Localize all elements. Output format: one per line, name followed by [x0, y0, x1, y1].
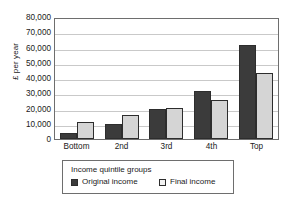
y-axis-tick-label: 30,000: [6, 90, 51, 98]
bar-original-income: [194, 91, 211, 139]
plot-area: [54, 18, 279, 140]
bar-chart: £ per year 80,00070,00060,00050,00040,00…: [0, 0, 297, 203]
x-axis-tick-labels: Bottom2nd3rd4thTop: [54, 141, 279, 152]
y-axis-tick-label: 0: [6, 136, 51, 144]
legend-label-final: Final income: [170, 177, 215, 187]
y-axis-tick-label: 60,000: [6, 45, 51, 53]
x-axis-tick-label: 2nd: [99, 141, 144, 152]
bar-group: [189, 19, 234, 139]
y-axis-tick-label: 80,000: [6, 14, 51, 22]
legend-swatch-icon-final: [159, 179, 166, 186]
bar-groups: [55, 19, 278, 139]
y-axis-tick-label: 50,000: [6, 60, 51, 68]
x-axis-tick-label: 3rd: [144, 141, 189, 152]
bar-group: [233, 19, 278, 139]
bar-final-income: [256, 73, 273, 139]
legend-item-original-income: Original income: [71, 177, 159, 187]
bar-final-income: [211, 100, 228, 139]
y-axis-tick-label: 10,000: [6, 121, 51, 129]
legend-label-original: Original income: [82, 177, 138, 187]
y-axis-tick-label: 40,000: [6, 75, 51, 83]
y-axis-tick-labels: 80,00070,00060,00050,00040,00030,00020,0…: [6, 18, 51, 140]
bar-final-income: [77, 122, 94, 139]
bar-original-income: [239, 45, 256, 140]
x-axis-tick-label: 4th: [189, 141, 234, 152]
y-axis-tick-label: 70,000: [6, 29, 51, 37]
legend-item-final-income: Final income: [159, 177, 215, 187]
legend-title: Income quintile groups: [71, 164, 233, 175]
bar-group: [100, 19, 145, 139]
bar-final-income: [122, 115, 139, 139]
bar-original-income: [149, 109, 166, 139]
bar-original-income: [60, 133, 77, 139]
legend-swatch-icon-original: [71, 179, 78, 186]
chart-legend: Income quintile groups Original income F…: [62, 160, 234, 194]
x-axis-tick-label: Top: [234, 141, 279, 152]
bar-group: [55, 19, 100, 139]
x-axis-tick-label: Bottom: [54, 141, 99, 152]
bar-final-income: [166, 108, 183, 140]
y-axis-tick-label: 20,000: [6, 106, 51, 114]
bar-group: [144, 19, 189, 139]
legend-items: Original income Final income: [71, 177, 233, 187]
bar-original-income: [105, 124, 122, 139]
